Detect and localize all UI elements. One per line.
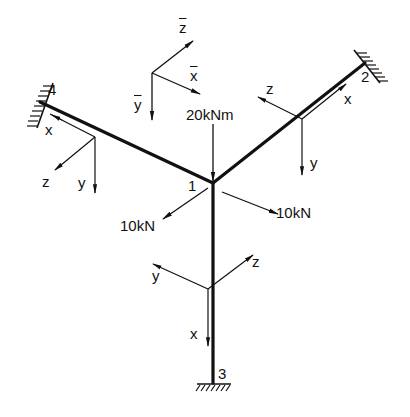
node-label-1: 1 xyxy=(188,178,196,193)
force-right-label: 10kN xyxy=(276,205,311,220)
global-x-label: x xyxy=(190,68,198,83)
node-label-2: 2 xyxy=(361,69,369,84)
local-axes-member-1-3 xyxy=(153,255,253,346)
local-x-arrow-m12 xyxy=(340,84,346,89)
node-label-4: 4 xyxy=(48,82,56,97)
m13-z-label: z xyxy=(252,254,260,269)
m12-y-label: y xyxy=(310,155,318,170)
force-arrow-left xyxy=(163,188,208,219)
moment-load-label: 20kNm xyxy=(186,107,234,122)
force-left-label: 10kN xyxy=(120,218,155,233)
local-y-arrow-m13 xyxy=(153,264,208,289)
local-z-arrow-m13 xyxy=(208,255,253,289)
member-1-2 xyxy=(213,63,365,183)
global-z-axis-arrow xyxy=(152,41,193,73)
local-axes-member-1-2 xyxy=(258,84,346,175)
m12-x-label: x xyxy=(344,91,352,106)
m13-y-label: y xyxy=(152,268,160,283)
m14-x-label: x xyxy=(45,122,53,137)
frame-diagram: z x y 1 2 3 4 x z y x z y y z x 20kNm 10… xyxy=(0,0,410,417)
support-node-3 xyxy=(196,384,231,391)
local-x-arrow-m14 xyxy=(52,115,62,120)
global-z-label: z xyxy=(179,20,187,35)
local-z-arrow-m14 xyxy=(55,137,95,170)
m14-z-label: z xyxy=(42,174,50,189)
m13-x-label: x xyxy=(190,326,198,341)
local-z-arrow-m12 xyxy=(258,97,302,119)
global-y-label: y xyxy=(134,97,142,112)
force-arrow-right xyxy=(222,192,278,214)
m14-y-label: y xyxy=(78,175,86,190)
diagram-drawing xyxy=(0,0,410,417)
node-label-3: 3 xyxy=(218,366,226,381)
loads xyxy=(163,124,278,219)
m12-z-label: z xyxy=(266,81,274,96)
